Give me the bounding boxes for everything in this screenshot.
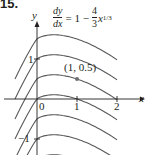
solution-curve	[15, 135, 117, 155]
y-axis-arrow-icon	[35, 21, 40, 27]
x-tick-label-1: 1	[74, 101, 80, 112]
differential-equation: dy dx = 1 − 4 3 x1/3	[52, 6, 112, 29]
x-axis-label: x	[139, 93, 144, 104]
point-label: (1, 0.5)	[64, 62, 96, 73]
y-tick-label-neg1: −1	[18, 133, 30, 144]
y-axis-label: y	[32, 10, 37, 21]
x-tick-label-2: 2	[114, 101, 120, 112]
solution-curve	[15, 95, 117, 139]
y-tick-label-1: 1	[28, 54, 34, 65]
coefficient-fraction: 4 3	[92, 6, 97, 29]
derivative-fraction: dy dx	[53, 6, 62, 29]
problem-number: 15.	[0, 0, 18, 10]
highlighted-point	[75, 77, 79, 81]
solution-curve	[15, 75, 117, 119]
x-tick-label-0: 0	[39, 101, 45, 112]
